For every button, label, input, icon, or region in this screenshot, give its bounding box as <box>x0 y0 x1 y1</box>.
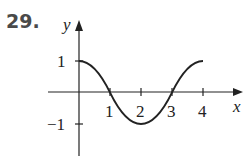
x-tick-label-1: 1 <box>105 102 114 121</box>
y-tick-label-neg1: −1 <box>47 115 65 134</box>
x-tick-label-4: 4 <box>198 102 207 121</box>
x-axis-arrow-icon <box>233 88 243 96</box>
y-axis-label: y <box>61 15 71 34</box>
y-axis-arrow-icon <box>75 20 83 31</box>
y-tick-label-1: 1 <box>57 52 66 71</box>
x-tick-label-3: 3 <box>167 102 176 121</box>
x-tick-label-2: 2 <box>136 102 145 121</box>
cosine-graph: 1 2 3 4 1 −1 y x <box>0 0 244 164</box>
x-axis-label: x <box>232 97 241 116</box>
